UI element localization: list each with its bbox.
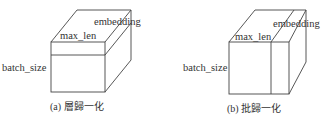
label-max-len: max_len [60, 30, 97, 41]
panel-layer-norm: batch_size max_len embedding (a) 層歸一化 [2, 10, 141, 113]
label-embedding: embedding [94, 16, 141, 27]
slab-line-side [105, 23, 131, 55]
label-embedding: embedding [273, 18, 320, 29]
normalization-diagram: batch_size max_len embedding (a) 層歸一化 ba… [0, 0, 322, 121]
label-batch-size: batch_size [183, 62, 228, 73]
label-max-len: max_len [235, 31, 272, 42]
panel-batch-norm: batch_size max_len embedding (b) 批歸一化 [183, 10, 320, 115]
caption-b: (b) 批歸一化 [227, 102, 281, 115]
caption-a: (a) 層歸一化 [50, 100, 104, 113]
label-batch-size: batch_size [2, 62, 47, 73]
